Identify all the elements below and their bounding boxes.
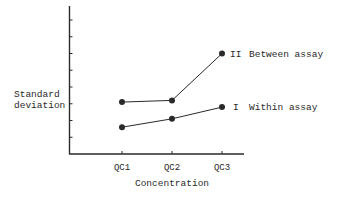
x-axis-label: Concentration bbox=[135, 178, 209, 189]
x-tick-label: QC3 bbox=[214, 163, 230, 173]
series-marker-label: I bbox=[233, 102, 239, 113]
sd-vs-concentration-chart: QC1QC2QC3 IIBetween assayIWithin assay S… bbox=[0, 0, 339, 199]
data-point bbox=[219, 51, 225, 57]
inline-legend: IIBetween assayIWithin assay bbox=[230, 49, 323, 114]
data-point bbox=[169, 116, 175, 122]
data-point bbox=[119, 99, 125, 105]
chart-svg: QC1QC2QC3 IIBetween assayIWithin assay S… bbox=[0, 0, 339, 199]
data-point bbox=[169, 97, 175, 103]
series-marker-label: II bbox=[230, 49, 241, 60]
series-line bbox=[122, 54, 222, 103]
series-name-label: Within assay bbox=[249, 102, 318, 113]
data-point bbox=[219, 104, 225, 110]
y-axis-label-line2: deviation bbox=[14, 100, 65, 111]
series-group bbox=[119, 51, 225, 131]
x-tick-label: QC2 bbox=[164, 163, 180, 173]
x-tick-label: QC1 bbox=[114, 163, 130, 173]
series-name-label: Between assay bbox=[249, 49, 323, 60]
y-axis-label-line1: Standard bbox=[14, 89, 60, 100]
data-point bbox=[119, 124, 125, 130]
